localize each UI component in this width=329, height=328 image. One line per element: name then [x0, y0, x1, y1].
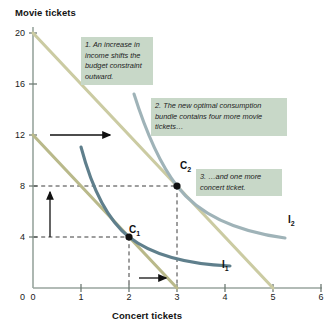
x-tick-label-2: 2 [122, 292, 136, 302]
x-tick-label-5: 5 [266, 292, 280, 302]
chart-canvas [0, 0, 329, 328]
y-axis-title: Movie tickets [15, 7, 76, 18]
annotation-callout-2: 2. The new optimal consumption bundle co… [151, 98, 287, 136]
curve-label-i1-sub: 1 [225, 265, 229, 272]
point-label-c1: C1 [129, 224, 140, 237]
x-tick-label-3: 3 [170, 292, 184, 302]
annotation-callout-1: 1. An increase in income shifts the budg… [81, 37, 153, 85]
point-label-c2-sub: 2 [187, 166, 191, 173]
x-axis-title: Concert tickets [112, 310, 182, 321]
point-c2 [173, 182, 180, 189]
y-tick-label-8: 8 [9, 181, 25, 191]
dashed-guide-lines [34, 186, 177, 287]
x-tick-label-0: 0 [26, 292, 40, 302]
x-tick-label-4: 4 [218, 292, 232, 302]
curve-label-i1: I1 [222, 259, 229, 272]
y-tick-label-4: 4 [9, 232, 25, 242]
point-label-c1-sub: 1 [136, 230, 140, 237]
budget-constraint-original [33, 135, 177, 288]
annotation-callout-3: 3. …and one more concert ticket. [196, 169, 282, 196]
point-label-c2: C2 [180, 160, 191, 173]
y-tick-label-12: 12 [9, 130, 25, 140]
y-tick-label-0: 0 [9, 292, 25, 302]
x-tick-label-1: 1 [74, 292, 88, 302]
curve-label-i2-sub: 2 [291, 220, 295, 227]
y-tick-label-20: 20 [9, 28, 25, 38]
economics-indifference-curve-figure: Movie tickets Concert tickets 20 16 12 8… [0, 0, 329, 328]
curve-label-i2: I2 [288, 214, 295, 227]
y-tick-label-16: 16 [9, 79, 25, 89]
x-tick-label-6: 6 [314, 292, 328, 302]
